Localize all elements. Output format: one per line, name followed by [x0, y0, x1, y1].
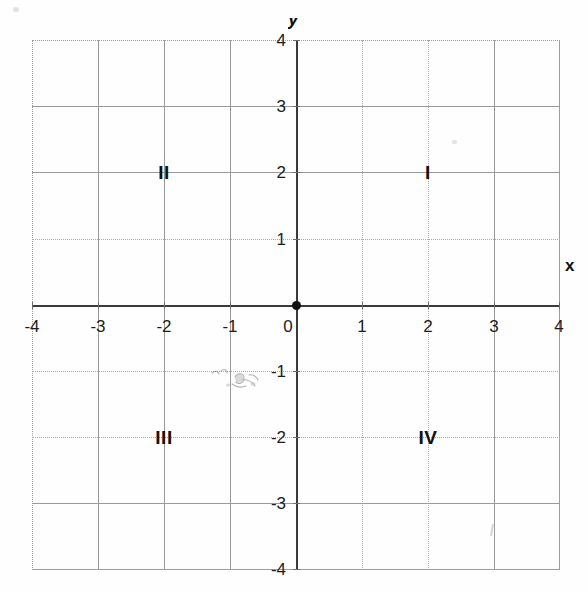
- quadrant-label-three: III: [155, 428, 172, 447]
- y-tick-3: [293, 106, 300, 107]
- x-tick-label-4: 4: [554, 318, 563, 335]
- plot-area: -4 -3 -2 -1 0 1 2 3 4 4 3 2 1 -1 -2 -3 -…: [32, 40, 560, 570]
- y-tick-1: [293, 239, 300, 240]
- x-tick-1: [362, 302, 363, 309]
- y-tick-label-1: 1: [260, 231, 286, 248]
- y-tick--2: [293, 437, 300, 438]
- y-axis-label-text: y: [288, 18, 299, 28]
- x-tick-label-3: 3: [489, 318, 498, 335]
- x-tick-label-2: 2: [423, 318, 432, 335]
- y-tick-label--1: -1: [253, 363, 286, 380]
- x-tick-2: [428, 302, 429, 309]
- y-tick--3: [293, 503, 300, 504]
- y-tick-label--3: -3: [253, 495, 286, 512]
- y-tick--4: [293, 569, 300, 570]
- quadrant-label-four: IV: [419, 428, 438, 447]
- scan-speck-icon: [13, 7, 19, 12]
- y-tick-label-3: 3: [260, 98, 286, 115]
- y-axis-label: y: [288, 18, 299, 35]
- x-tick--2: [164, 302, 165, 309]
- x-tick-label-0: 0: [283, 318, 292, 335]
- x-tick-4: [559, 302, 560, 309]
- x-tick--3: [98, 302, 99, 309]
- x-tick-label--3: -3: [90, 318, 105, 335]
- x-tick-label-1: 1: [357, 318, 366, 335]
- coordinate-plane-figure: -4 -3 -2 -1 0 1 2 3 4 4 3 2 1 -1 -2 -3 -…: [0, 0, 588, 592]
- y-tick--1: [293, 371, 300, 372]
- y-tick-4: [293, 40, 300, 41]
- x-tick-label--4: -4: [24, 318, 39, 335]
- y-tick-label--2: -2: [253, 429, 286, 446]
- quadrant-label-two: II: [158, 163, 170, 182]
- y-tick-label-2: 2: [260, 164, 286, 181]
- y-tick-2: [293, 172, 300, 173]
- y-tick-label-4: 4: [260, 32, 286, 49]
- x-tick-label--1: -1: [222, 318, 237, 335]
- x-tick--1: [230, 302, 231, 309]
- quadrant-label-one: I: [425, 163, 431, 182]
- x-tick-label--2: -2: [156, 318, 171, 335]
- x-tick-3: [494, 302, 495, 309]
- origin-point-marker: [292, 301, 301, 310]
- y-tick-label--4: -4: [253, 561, 286, 578]
- x-tick--4: [32, 302, 33, 309]
- x-axis-label: x: [565, 257, 574, 274]
